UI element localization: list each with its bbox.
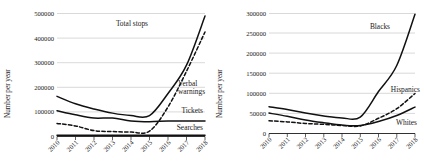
left-gridlines xyxy=(57,14,205,112)
label-tickets: Tickets xyxy=(182,106,204,115)
figure-container: Number per year 0 100000 200000 300000 4… xyxy=(0,0,424,166)
svg-text:250000: 250000 xyxy=(246,30,266,37)
svg-text:2016: 2016 xyxy=(157,138,172,153)
svg-text:2010: 2010 xyxy=(46,138,61,153)
svg-text:2015: 2015 xyxy=(350,135,365,150)
svg-text:2013: 2013 xyxy=(102,138,117,153)
svg-text:2018: 2018 xyxy=(404,135,419,150)
svg-text:50000: 50000 xyxy=(250,110,267,117)
svg-text:2012: 2012 xyxy=(83,139,97,153)
svg-text:2016: 2016 xyxy=(368,135,383,150)
svg-text:500000: 500000 xyxy=(34,10,54,17)
right-gridlines xyxy=(269,14,415,114)
left-y-axis-title: Number per year xyxy=(4,69,12,118)
label-whites: Whites xyxy=(396,118,417,127)
svg-text:300000: 300000 xyxy=(246,10,266,17)
right-x-tickmarks xyxy=(269,134,415,138)
series-total-stops xyxy=(57,16,205,117)
svg-text:2011: 2011 xyxy=(277,136,291,150)
svg-text:200000: 200000 xyxy=(246,50,266,57)
right-y-axis-title: Number per year xyxy=(216,69,224,118)
svg-text:400000: 400000 xyxy=(34,35,54,42)
svg-text:2014: 2014 xyxy=(120,138,135,153)
svg-text:100000: 100000 xyxy=(246,90,266,97)
svg-text:2012: 2012 xyxy=(295,136,309,150)
label-hispanics: Hispanics xyxy=(391,85,420,94)
svg-text:2017: 2017 xyxy=(176,138,191,153)
svg-text:0: 0 xyxy=(263,130,267,137)
right-series-paths xyxy=(269,14,415,126)
label-total-stops: Total stops xyxy=(116,19,148,28)
left-x-tick-labels: 2010 2011 2012 2013 2014 2015 2016 2017 … xyxy=(46,138,209,153)
svg-text:150000: 150000 xyxy=(246,70,266,77)
label-searches: Searches xyxy=(177,123,203,132)
svg-text:2017: 2017 xyxy=(386,135,401,150)
right-panel-svg: Number per year 0 50000 100000 150000 20… xyxy=(212,0,424,166)
right-y-tick-labels: 0 50000 100000 150000 200000 250000 3000… xyxy=(246,10,266,137)
svg-text:2015: 2015 xyxy=(139,138,154,153)
right-x-tick-labels: 2010 2011 2012 2013 2014 2015 2016 2017 … xyxy=(258,135,419,150)
svg-text:200000: 200000 xyxy=(34,84,54,91)
left-y-tick-labels: 0 100000 200000 300000 400000 500000 xyxy=(34,10,54,140)
left-panel-svg: Number per year 0 100000 200000 300000 4… xyxy=(0,0,212,166)
svg-text:300000: 300000 xyxy=(34,59,54,66)
svg-text:2011: 2011 xyxy=(65,139,79,153)
svg-text:2014: 2014 xyxy=(331,135,346,150)
label-blacks: Blacks xyxy=(370,22,390,31)
svg-text:2010: 2010 xyxy=(258,135,273,150)
label-verbal-warnings-line2: warnings xyxy=(178,87,205,96)
svg-text:2013: 2013 xyxy=(313,135,328,150)
svg-text:0: 0 xyxy=(51,133,55,140)
left-series-paths xyxy=(57,16,205,135)
series-blacks xyxy=(269,14,415,119)
svg-text:100000: 100000 xyxy=(34,108,54,115)
right-panel: Number per year 0 50000 100000 150000 20… xyxy=(212,0,424,166)
left-x-tickmarks xyxy=(57,137,205,141)
left-panel: Number per year 0 100000 200000 300000 4… xyxy=(0,0,212,166)
svg-text:2018: 2018 xyxy=(194,138,209,153)
